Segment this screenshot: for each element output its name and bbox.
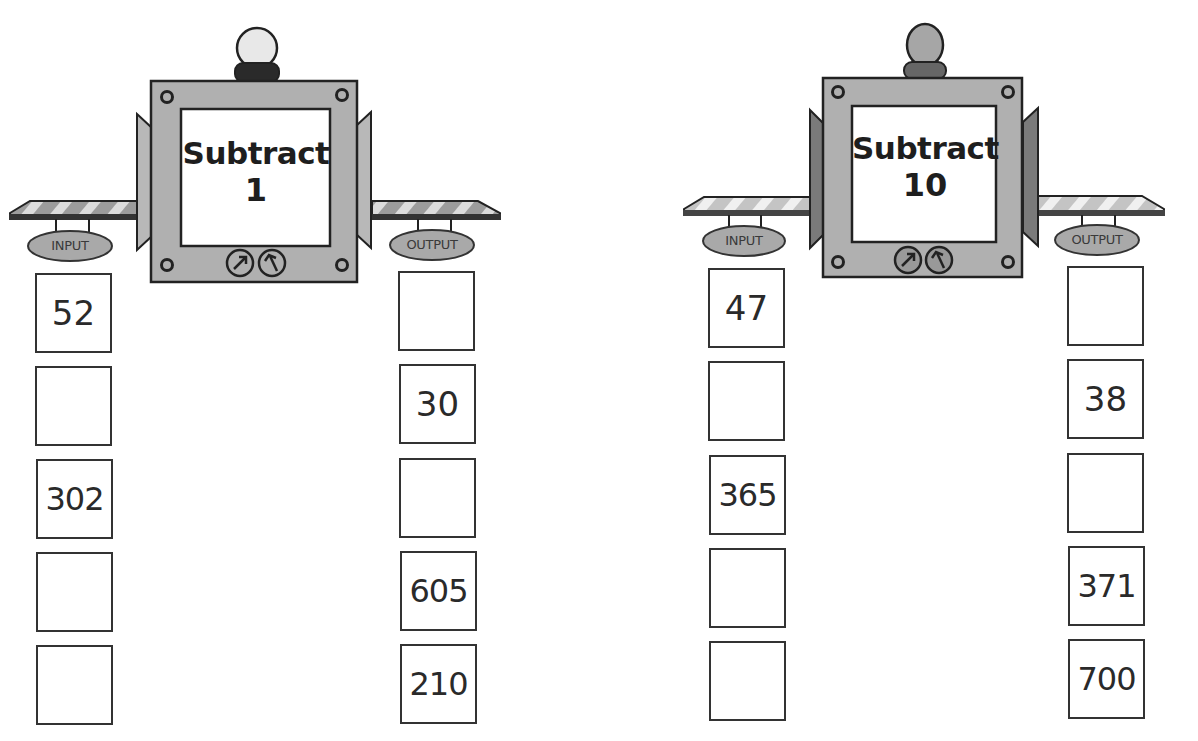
machine-2-input-4[interactable]: [709, 548, 786, 628]
dial-up-left-icon: [926, 247, 952, 273]
dial-up-right-icon: [895, 247, 921, 273]
machine-2-input-3[interactable]: 365: [709, 455, 786, 535]
output-sign-label: OUTPUT: [1055, 232, 1139, 247]
machine-2-output-4[interactable]: 371: [1068, 546, 1145, 626]
machine-1-output-5[interactable]: 210: [400, 644, 477, 724]
machine-1-input-2[interactable]: [35, 366, 112, 446]
machine-1-input-1[interactable]: 52: [35, 273, 112, 353]
operation-value: 1: [181, 174, 331, 208]
input-sign-label: INPUT: [702, 233, 786, 248]
machine-1-output-2[interactable]: 30: [399, 364, 476, 444]
machine-1-rule: Subtract 1: [181, 137, 331, 207]
machine-1-input-5[interactable]: [36, 645, 113, 725]
machine-2-input-1[interactable]: 47: [708, 268, 785, 348]
dial-up-left-icon: [259, 250, 285, 276]
machine-2-output-3[interactable]: [1067, 453, 1144, 533]
dial-up-right-icon: [227, 250, 253, 276]
machine-1-input-4[interactable]: [36, 552, 113, 632]
machine-2-rule: Subtract 10: [852, 132, 998, 202]
bulb-icon: [904, 24, 946, 79]
function-machine-2: Subtract 10 INPUT OUTPUT: [670, 0, 1198, 290]
bulb-icon: [235, 28, 279, 82]
machine-2-input-5[interactable]: [709, 641, 786, 721]
right-flap-icon: [1023, 108, 1038, 246]
machine-2-output-2[interactable]: 38: [1067, 359, 1144, 439]
output-sign-label: OUTPUT: [390, 237, 474, 252]
machine-1-output-4[interactable]: 605: [400, 551, 477, 631]
machine-2-output-1[interactable]: [1067, 266, 1144, 346]
function-machine-1: Subtract 1 INPUT OUTPUT: [0, 0, 520, 290]
operation-label: Subtract: [181, 137, 331, 170]
machine-1-output-3[interactable]: [399, 458, 476, 538]
input-sign-label: INPUT: [28, 238, 112, 253]
operation-value: 10: [852, 169, 998, 203]
machine-2-output-5[interactable]: 700: [1068, 639, 1145, 719]
machine-2-input-2[interactable]: [708, 361, 785, 441]
operation-label: Subtract: [852, 132, 998, 165]
machine-1-input-3[interactable]: 302: [36, 459, 113, 539]
machine-1-output-1[interactable]: [398, 271, 475, 351]
